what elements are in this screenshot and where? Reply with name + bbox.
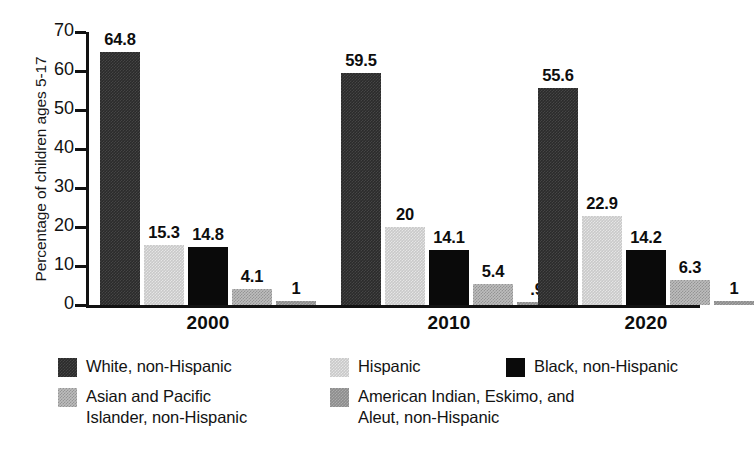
bar[interactable]	[714, 301, 754, 305]
y-axis-tick-mark	[75, 70, 86, 73]
bar-value-label: 20	[396, 205, 414, 224]
x-axis-baseline	[86, 305, 700, 308]
bar-group-bars: 59.52014.15.4.9	[341, 32, 557, 305]
legend-row-1: White, non-HispanicHispanicBlack, non-Hi…	[58, 356, 738, 386]
y-axis-tick-label: 0	[30, 293, 74, 313]
bar[interactable]	[276, 301, 316, 305]
bar-slot: 15.3	[144, 32, 184, 305]
bar[interactable]	[385, 227, 425, 305]
bar-slot: 55.6	[538, 32, 578, 305]
y-axis-tick-mark	[75, 31, 86, 34]
bar-slot: 59.5	[341, 32, 381, 305]
bar-group-bars: 55.622.914.26.31	[538, 32, 754, 305]
legend-label: Asian and Pacific Islander, non-Hispanic	[86, 386, 247, 427]
y-axis-tick-label: 20	[30, 215, 74, 235]
bar[interactable]	[538, 88, 578, 305]
bar[interactable]	[144, 245, 184, 305]
y-axis-tick-label: 40	[30, 137, 74, 157]
bar[interactable]	[670, 280, 710, 305]
y-axis-tick-label: 30	[30, 176, 74, 196]
bar[interactable]	[100, 52, 140, 305]
bar-value-label: 14.2	[630, 228, 661, 247]
legend-item[interactable]: Black, non-Hispanic	[506, 356, 678, 377]
plot-area: 706050403020100 64.815.314.84.11200059.5…	[86, 32, 700, 305]
legend-row-2: Asian and Pacific Islander, non-Hispanic…	[58, 386, 738, 416]
y-axis-tick-mark	[75, 226, 86, 229]
bar-group-2020: 55.622.914.26.312020	[538, 32, 754, 305]
x-axis-group-label: 2000	[100, 312, 316, 334]
bar[interactable]	[232, 289, 272, 305]
bar-slot: 1	[714, 32, 754, 305]
legend-swatch-icon	[330, 388, 349, 407]
bar-value-label: 15.3	[148, 223, 179, 242]
legend-item[interactable]: White, non-Hispanic	[58, 356, 232, 377]
bar-group-2010: 59.52014.15.4.92010	[341, 32, 557, 305]
legend-label: White, non-Hispanic	[86, 356, 232, 377]
y-axis-spine	[86, 32, 89, 305]
legend-item[interactable]: Hispanic	[330, 356, 420, 377]
bar-value-label: 22.9	[586, 194, 617, 213]
legend-label: American Indian, Eskimo, and Aleut, non-…	[358, 386, 574, 427]
x-axis-group-label: 2010	[341, 312, 557, 334]
bar-slot: 4.1	[232, 32, 272, 305]
bar-value-label: 6.3	[679, 258, 701, 277]
y-axis-tick-mark	[75, 265, 86, 268]
legend-item[interactable]: Asian and Pacific Islander, non-Hispanic	[58, 386, 247, 427]
bar-slot: 22.9	[582, 32, 622, 305]
bar-value-label: 64.8	[104, 30, 135, 49]
bar[interactable]	[429, 250, 469, 305]
legend-swatch-icon	[58, 388, 77, 407]
bar-value-label: 5.4	[482, 262, 504, 281]
legend-item[interactable]: American Indian, Eskimo, and Aleut, non-…	[330, 386, 574, 427]
bar[interactable]	[341, 73, 381, 305]
y-axis-tick-mark	[75, 304, 86, 307]
y-axis-tick-label: 50	[30, 98, 74, 118]
legend-label: Hispanic	[358, 356, 420, 377]
bar-slot: 14.8	[188, 32, 228, 305]
y-axis-tick-mark	[75, 187, 86, 190]
bar-group-2000: 64.815.314.84.112000	[100, 32, 316, 305]
bar-value-label: 1	[730, 279, 739, 298]
y-axis-tick-mark	[75, 109, 86, 112]
bar[interactable]	[582, 216, 622, 305]
bar-value-label: 55.6	[542, 66, 573, 85]
bar-value-label: 1	[292, 279, 301, 298]
bar-value-label: 14.8	[192, 225, 223, 244]
bar[interactable]	[626, 250, 666, 305]
bar-slot: 6.3	[670, 32, 710, 305]
y-axis-tick-label: 70	[30, 20, 74, 40]
bar-value-label: 4.1	[241, 267, 263, 286]
x-axis-group-label: 2020	[538, 312, 754, 334]
bar-value-label: 59.5	[345, 51, 376, 70]
legend-swatch-icon	[330, 358, 349, 377]
legend-swatch-icon	[58, 358, 77, 377]
bar-slot: 5.4	[473, 32, 513, 305]
bar-slot: 1	[276, 32, 316, 305]
bar-group-bars: 64.815.314.84.11	[100, 32, 316, 305]
legend-swatch-icon	[506, 358, 525, 377]
chart-legend: White, non-HispanicHispanicBlack, non-Hi…	[58, 356, 738, 416]
bar-slot: 20	[385, 32, 425, 305]
bar-slot: 64.8	[100, 32, 140, 305]
bar-value-label: 14.1	[433, 228, 464, 247]
legend-label: Black, non-Hispanic	[534, 356, 678, 377]
y-axis-tick-label: 60	[30, 59, 74, 79]
bar-slot: 14.2	[626, 32, 666, 305]
bar[interactable]	[188, 247, 228, 305]
bar-slot: 14.1	[429, 32, 469, 305]
y-axis-tick-mark	[75, 148, 86, 151]
y-axis-tick-label: 10	[30, 254, 74, 274]
bar[interactable]	[473, 284, 513, 305]
